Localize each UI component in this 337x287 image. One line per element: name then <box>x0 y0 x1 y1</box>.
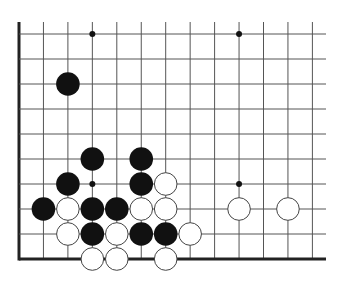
black-stone <box>81 147 105 171</box>
white-stone <box>154 198 177 221</box>
black-stone <box>129 147 153 171</box>
white-stone <box>57 198 80 221</box>
black-stone <box>129 222 153 246</box>
white-stone <box>179 223 202 246</box>
black-stone <box>129 172 153 196</box>
white-stone <box>130 198 153 221</box>
black-stone <box>32 197 56 221</box>
black-stone <box>105 197 129 221</box>
white-stone <box>57 223 80 246</box>
white-stone <box>154 248 177 271</box>
black-stone <box>81 197 105 221</box>
black-stone <box>56 72 80 96</box>
star-point <box>236 181 242 187</box>
white-stone <box>277 198 300 221</box>
star-point <box>236 31 242 37</box>
star-point <box>89 31 95 37</box>
white-stone <box>228 198 251 221</box>
star-point <box>89 181 95 187</box>
black-stone <box>81 222 105 246</box>
go-board-diagram <box>0 0 337 287</box>
white-stone <box>106 223 129 246</box>
black-stone <box>154 222 178 246</box>
white-stone <box>154 173 177 196</box>
white-stone <box>106 248 129 271</box>
white-stone <box>81 248 104 271</box>
black-stone <box>56 172 80 196</box>
